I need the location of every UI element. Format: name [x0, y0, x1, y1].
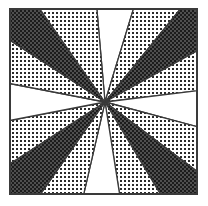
wedge-group: [0, 0, 208, 206]
figure-root: [0, 0, 208, 206]
pinwheel-diagram: [0, 0, 208, 206]
